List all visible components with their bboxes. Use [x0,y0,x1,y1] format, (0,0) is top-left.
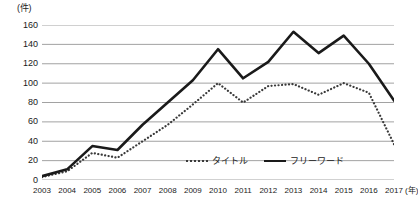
series-line-1 [42,32,394,176]
x-axis-tick-label: 2016 [360,186,378,195]
y-axis-tick-label: 140 [0,40,38,49]
x-axis-tick-label: 2017 [385,186,403,195]
chart-legend: タイトル フリーワード [186,156,344,166]
legend-item-title: タイトル [186,156,248,166]
legend-label: フリーワード [290,156,344,166]
y-axis-tick-label: 120 [0,59,38,68]
x-axis-tick-label: 2008 [159,186,177,195]
x-axis-tick-label: 2006 [109,186,127,195]
y-axis-tick-label: 0 [0,176,38,185]
x-axis-tick-label: 2009 [184,186,202,195]
legend-label: タイトル [212,156,248,166]
x-axis-unit-label: (年) [405,186,418,195]
x-axis-tick-label: 2004 [58,186,76,195]
x-axis-tick-label: 2015 [335,186,353,195]
x-axis-tick-label: 2003 [33,186,51,195]
x-axis-tick-label: 2007 [134,186,152,195]
y-axis-tick-label: 160 [0,21,38,30]
x-axis-tick-label: 2012 [259,186,277,195]
y-axis-tick-label: 80 [0,98,38,107]
x-axis-tick-label: 2005 [83,186,101,195]
y-axis-tick-labels: 020406080100120140160 [0,0,38,215]
x-axis-tick-labels: 2003200420052006200720082009201020112012… [0,186,412,202]
legend-solid-line-icon [264,160,286,162]
legend-dotted-line-icon [186,160,208,162]
y-axis-tick-label: 100 [0,79,38,88]
y-axis-tick-label: 20 [0,156,38,165]
x-axis-tick-label: 2013 [285,186,303,195]
x-axis-tick-label: 2010 [209,186,227,195]
y-axis-tick-label: 60 [0,117,38,126]
y-axis-tick-label: 40 [0,137,38,146]
x-axis-tick-label: 2011 [235,186,252,195]
x-axis-tick-label: 2014 [310,186,328,195]
legend-item-freeword: フリーワード [264,156,344,166]
